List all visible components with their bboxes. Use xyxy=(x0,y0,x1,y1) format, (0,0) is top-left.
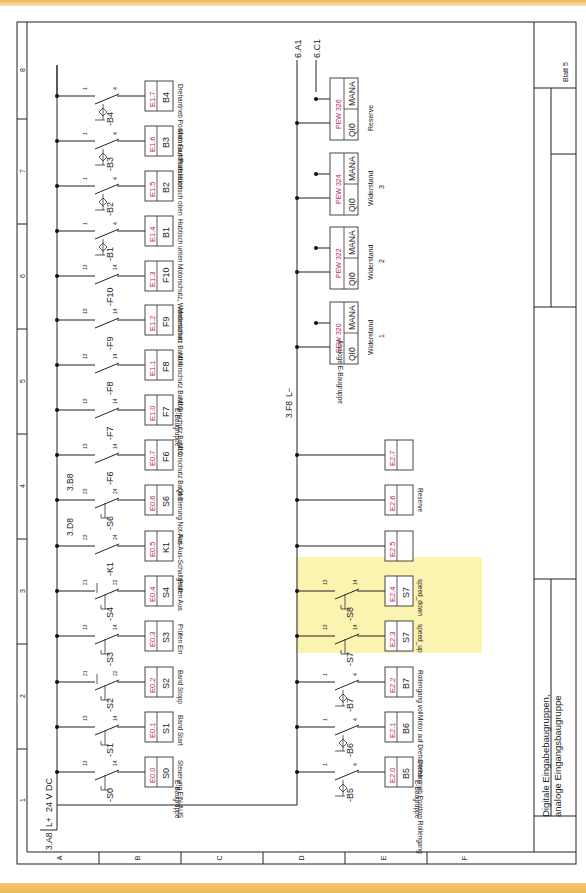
analog-index: 2 xyxy=(378,259,385,263)
pin-label: 14 xyxy=(112,398,118,404)
group-label: E-Baugruppe xyxy=(173,780,181,819)
device-tag: -F7 xyxy=(105,427,115,441)
io-symbol: B7 xyxy=(401,678,411,689)
input-circuit-E2-5: E2.5 xyxy=(295,531,413,561)
io-symbol: F7 xyxy=(161,406,171,417)
pin-label: 4 xyxy=(112,222,118,225)
pin-label: 1 xyxy=(82,222,88,225)
pin-label: 13 xyxy=(82,264,88,270)
io-address: E0.5 xyxy=(148,542,157,557)
row-b-circuits: 1314-S0E0.0S0Steuerung EIN-AUS1314-S1E0.… xyxy=(55,65,184,819)
pin-label: 13 xyxy=(82,353,88,359)
junction-dot xyxy=(55,318,59,322)
column-label: 7 xyxy=(19,169,26,173)
contact-blade xyxy=(95,634,119,644)
column-band-dividers xyxy=(17,119,27,749)
pin-label: 24 xyxy=(112,488,118,494)
pin-label: 14 xyxy=(352,579,358,585)
analog-circuits: PEW 320QI0MANAWiderstand1PEW 322QI0MANAW… xyxy=(295,78,385,364)
analog-index: 3 xyxy=(378,185,385,189)
io-address: E2.2 xyxy=(388,678,397,693)
device-tag: -B5 xyxy=(345,788,355,802)
cross-ref: 3.B8 xyxy=(65,473,75,491)
io-address: E2.7 xyxy=(388,451,397,466)
analog-ground: MANA xyxy=(347,305,357,330)
device-tag: -B4 xyxy=(105,112,115,126)
pin-label: 22 xyxy=(112,670,118,676)
input-circuit-E2-0: 14-B5E2.0B5Drehantrieb Position Rollenga… xyxy=(295,757,424,854)
pin-label: 13 xyxy=(82,443,88,449)
input-circuit-E2-6: E2.6Reserve xyxy=(295,485,424,515)
io-symbol: B1 xyxy=(161,227,171,238)
junction-dot xyxy=(55,139,59,143)
io-description: Motorschutz, Wendestation xyxy=(177,264,184,343)
io-address: E2.5 xyxy=(388,542,397,557)
io-symbol: B2 xyxy=(161,182,171,193)
cross-ref: 3.D8 xyxy=(65,518,75,536)
junction-dot xyxy=(295,634,299,638)
junction-dot xyxy=(55,770,59,774)
io-address: E2.4 xyxy=(388,587,397,602)
pin-label: 13 xyxy=(322,624,328,630)
io-symbol: S2 xyxy=(161,678,171,689)
pin-label: 1 xyxy=(322,763,328,766)
junction-dot xyxy=(55,184,59,188)
input-circuit-E0-2: 2122-S2E0.2S2Band Stopp xyxy=(55,667,184,712)
io-address: E0.2 xyxy=(148,678,157,693)
pin-label: 23 xyxy=(82,534,88,540)
pin-label: 4 xyxy=(112,132,118,135)
io-address: E0.6 xyxy=(148,496,157,511)
contact-blade xyxy=(95,184,119,194)
pin-label: 13 xyxy=(82,624,88,630)
pin-label: 14 xyxy=(112,760,118,766)
row-band-dividers xyxy=(99,852,427,864)
row-label: B xyxy=(134,855,141,860)
pin-label: 1 xyxy=(82,87,88,90)
row-label: A xyxy=(56,855,63,860)
junction-dot xyxy=(55,544,59,548)
device-tag: -B3 xyxy=(105,157,115,171)
pin-label: 1 xyxy=(322,718,328,721)
analog-index: 1 xyxy=(378,334,385,338)
analog-ground: MANA xyxy=(347,230,357,255)
contact-blade xyxy=(95,589,119,599)
io-address: E0.1 xyxy=(148,723,157,738)
input-circuit-E2-2: 14-B7E2.2B7Rollengang voll xyxy=(295,667,424,715)
io-address: E1.0 xyxy=(148,406,157,421)
pin-label: 4 xyxy=(352,763,358,766)
analog-input-3: PEW 324QI0MANAWiderstand3 xyxy=(295,153,385,215)
junction-dot xyxy=(295,725,299,729)
io-symbol: S7 xyxy=(401,587,411,598)
row-label: D xyxy=(298,855,305,860)
contact-blade xyxy=(95,229,119,239)
column-label: 3 xyxy=(19,589,26,593)
pin-label: 14 xyxy=(112,715,118,721)
input-circuit-E2-7: E2.7 xyxy=(295,440,413,470)
input-circuit-E1-4: 14-B1E1.4B1Hubtisch unten xyxy=(55,216,184,263)
pin-label: 1 xyxy=(82,132,88,135)
column-label: 1 xyxy=(19,798,26,802)
input-circuit-E0-4: 2122-S4E0.4S4Prüfen Aus xyxy=(55,576,184,621)
junction-dot xyxy=(295,453,299,457)
pin-label: 22 xyxy=(112,579,118,585)
pin-label: 4 xyxy=(352,673,358,676)
contact-blade xyxy=(95,725,119,735)
input-circuit-E0-1: 1314-S1E0.1S1Band Start xyxy=(55,712,184,757)
row-label: C xyxy=(216,855,223,860)
contact-blade xyxy=(95,544,119,554)
io-address: E0.0 xyxy=(148,768,157,783)
pin-label: 14 xyxy=(112,264,118,270)
io-symbol: S0 xyxy=(161,768,171,779)
pin-label: 4 xyxy=(112,177,118,180)
column-label: 4 xyxy=(19,484,26,488)
io-symbol: S4 xyxy=(161,587,171,598)
sheet-title: Digitale Eingabebaugruppen, xyxy=(540,694,551,817)
group-label: Analoge E-Baugruppe xyxy=(336,340,344,404)
io-symbol: S6 xyxy=(161,496,171,507)
column-label: 6 xyxy=(19,274,26,278)
io-symbol: F6 xyxy=(161,451,171,462)
group-label: E-Baugruppe xyxy=(413,780,421,819)
analog-description: Widerstand xyxy=(367,170,374,206)
io-address: E1.2 xyxy=(148,316,157,331)
device-tag: -F8 xyxy=(105,382,115,396)
